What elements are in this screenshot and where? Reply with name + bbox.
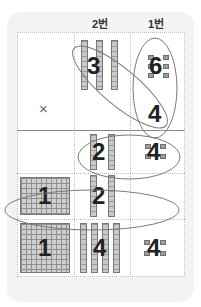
ellipse-ones-times-ones	[133, 38, 177, 138]
ellipse-partial-120	[5, 190, 179, 230]
grouping-ellipses	[0, 0, 201, 307]
ellipse-partial-24	[78, 135, 180, 179]
ellipse-tens-times-ones	[62, 35, 177, 140]
